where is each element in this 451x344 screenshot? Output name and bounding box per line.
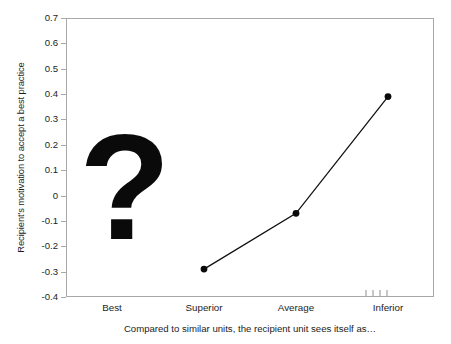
y-tick-label: 0.5	[18, 64, 58, 74]
y-tick-label: 0.6	[18, 38, 58, 48]
chart-figure: Recipient's motivation to accept a best …	[0, 0, 451, 344]
x-axis-title: Compared to similar units, the recipient…	[66, 322, 434, 335]
y-tick-label: -0.3	[18, 267, 58, 277]
y-tick-label: 0.3	[18, 114, 58, 124]
y-tick-label: 0.4	[18, 89, 58, 99]
y-axis-title: Recipient's motivation to accept a best …	[14, 18, 28, 297]
y-tick-label: -0.1	[18, 216, 58, 226]
y-tick-label: -0.2	[18, 241, 58, 251]
y-tick-label: 0.2	[18, 140, 58, 150]
y-tick-mark	[61, 297, 66, 298]
y-tick-label: 0.7	[18, 13, 58, 23]
missing-data-question-mark: ?	[79, 112, 171, 262]
x-tick-label-inferior: Inferior	[328, 301, 448, 314]
y-tick-label: 0.1	[18, 165, 58, 175]
y-tick-label: 0	[18, 191, 58, 201]
